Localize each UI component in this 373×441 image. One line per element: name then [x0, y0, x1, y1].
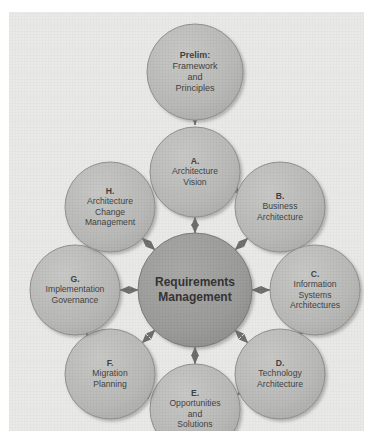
- node-requirements-management[interactable]: RequirementsManagement: [138, 233, 252, 347]
- node-label-line: Management: [158, 290, 231, 304]
- node-label-line: A.: [191, 156, 200, 166]
- node-label-line: Architecture: [87, 196, 133, 206]
- node-label-line: C.: [311, 269, 320, 279]
- node-label-line: Systems: [299, 290, 332, 300]
- node-phase-c[interactable]: C.InformationSystemsArchitectures: [270, 245, 360, 335]
- node-label-line: E.: [191, 388, 199, 398]
- node-label-line: Business: [263, 201, 298, 211]
- node-label-line: H.: [106, 186, 115, 196]
- node-label-line: Architecture: [257, 379, 303, 389]
- node-phase-h[interactable]: H.ArchitectureChangeManagement: [65, 162, 155, 252]
- node-prelim[interactable]: Prelim:FrameworkandPrinciples: [147, 24, 243, 120]
- node-label-line: Principles: [175, 83, 215, 93]
- node-label-line: Vision: [183, 177, 206, 187]
- node-label-line: Change: [95, 207, 125, 217]
- spoke-hub-phase-h: [142, 238, 155, 250]
- node-label-line: Management: [85, 217, 136, 227]
- node-phase-e[interactable]: E.OpportunitiesandSolutions: [150, 364, 240, 431]
- node-label-line: Opportunities: [169, 398, 220, 408]
- node-label-line: D.: [276, 358, 285, 368]
- node-label-line: F.: [107, 358, 114, 368]
- diagram-panel: Prelim:FrameworkandPrinciplesA.Architect…: [9, 12, 364, 431]
- node-label-line: Planning: [93, 379, 127, 389]
- spoke-hub-phase-b: [235, 238, 248, 250]
- node-label-line: Governance: [52, 295, 99, 305]
- node-label-line: Prelim:: [180, 50, 211, 60]
- node-phase-a[interactable]: A.ArchitectureVision: [150, 127, 240, 217]
- node-label-line: Architectures: [290, 300, 340, 310]
- node-label-line: Requirements: [155, 275, 235, 289]
- node-label-line: and: [187, 72, 202, 82]
- node-phase-d[interactable]: D.TechnologyArchitecture: [235, 329, 325, 419]
- adm-cycle-diagram: Prelim:FrameworkandPrinciplesA.Architect…: [9, 12, 364, 431]
- node-label-line: Technology: [258, 368, 302, 378]
- node-label-line: B.: [276, 191, 285, 201]
- node-label-line: Implementation: [46, 284, 105, 294]
- spoke-hub-phase-f: [142, 330, 155, 343]
- node-label-line: Migration: [92, 368, 128, 378]
- node-phase-f[interactable]: F.MigrationPlanning: [65, 329, 155, 419]
- spoke-hub-phase-d: [235, 330, 248, 343]
- node-phase-g[interactable]: G.ImplementationGovernance: [30, 245, 120, 335]
- node-label-line: Framework: [172, 61, 218, 71]
- node-label-line: Architecture: [257, 212, 303, 222]
- node-label-line: Architecture: [172, 166, 218, 176]
- node-phase-b[interactable]: B.BusinessArchitecture: [235, 162, 325, 252]
- node-label-line: Solutions: [177, 419, 212, 429]
- node-label-line: G.: [70, 274, 79, 284]
- node-label-line: Information: [294, 279, 337, 289]
- node-label-line: and: [188, 409, 203, 419]
